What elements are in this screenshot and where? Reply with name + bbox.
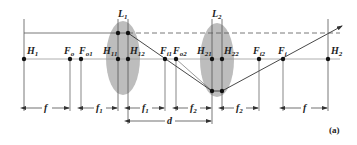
lens-1: [106, 21, 140, 95]
label-fo1: Fo1: [78, 45, 93, 58]
label-fo: Fo: [63, 45, 75, 58]
figure-caption: (a): [329, 125, 340, 135]
label-h2: H2: [330, 45, 343, 58]
label-fi: Fi: [277, 45, 287, 58]
label-l2: L2: [211, 8, 222, 21]
dimension-labels: f f1 f1 f2 f2 f d: [42, 102, 311, 126]
label-l1: L1: [117, 8, 128, 21]
label-h1: H1: [26, 45, 38, 58]
label-fi2: Fi2: [252, 45, 266, 58]
label-fo2: Fo2: [172, 45, 187, 58]
optics-diagram: L1 L2 H1 Fo Fo1 H11 H12 Fi1 Fo2 H21 H22 …: [0, 0, 357, 145]
